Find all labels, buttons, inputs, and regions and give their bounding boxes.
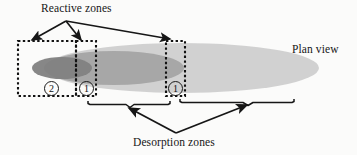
- zone-marker-1-right: 1: [168, 81, 183, 96]
- brace-left: [88, 101, 170, 108]
- brace-right: [180, 99, 294, 106]
- diagram-canvas: [0, 0, 357, 155]
- zone-marker-1-left: 1: [79, 81, 94, 96]
- plan-view-label: Plan view: [292, 43, 339, 55]
- desorption-zones-label: Desorption zones: [133, 136, 215, 148]
- reactive-leader-arrow-3: [66, 21, 170, 39]
- reactive-zones-label: Reactive zones: [41, 2, 112, 14]
- reactive-leader-arrow-1: [32, 21, 66, 40]
- desorption-leader-arrow-2: [176, 105, 247, 133]
- zone-marker-2: 2: [44, 81, 59, 96]
- plume-inner-ellipse: [32, 57, 92, 79]
- desorption-leader-arrow-1: [129, 108, 176, 133]
- plan-view-diagram: Reactive zones Plan view Desorption zone…: [0, 0, 357, 155]
